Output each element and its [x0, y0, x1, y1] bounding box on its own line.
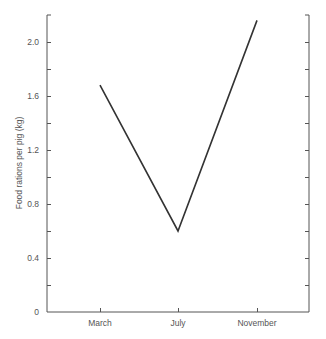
y-ticks: 00.40.81.21.62.0 [27, 37, 309, 317]
x-tick-label: March [88, 318, 112, 328]
y-tick-label: 1.6 [27, 91, 39, 101]
x-tick-label: November [237, 318, 276, 328]
line-chart: 00.40.81.21.62.0 MarchJulyNovember Food … [0, 0, 326, 339]
y-axis-title: Food rations per pig (kg) [14, 117, 24, 210]
y-tick-label: 0.8 [27, 199, 39, 209]
y-tick-label: 0.4 [27, 253, 39, 263]
data-line [100, 20, 257, 231]
axes [47, 15, 309, 312]
y-tick-label: 2.0 [27, 37, 39, 47]
x-ticks: MarchJulyNovember [88, 308, 277, 328]
y-tick-label: 1.2 [27, 145, 39, 155]
y-tick-label: 0 [34, 307, 39, 317]
x-tick-label: July [170, 318, 186, 328]
